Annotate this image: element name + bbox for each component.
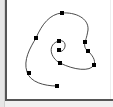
control-point-handle[interactable] [27, 71, 31, 75]
control-point-handle[interactable] [92, 63, 96, 67]
control-point-handle[interactable] [83, 40, 87, 44]
control-point-handle[interactable] [57, 48, 61, 52]
control-point-handle[interactable] [55, 84, 59, 88]
canvas-frame [0, 0, 113, 107]
control-point-handle[interactable] [58, 61, 62, 65]
control-point-handle[interactable] [57, 39, 61, 43]
control-point-handle[interactable] [34, 36, 38, 40]
control-point-handle[interactable] [60, 11, 64, 15]
control-point-handle[interactable] [86, 49, 90, 53]
drawing-canvas[interactable] [0, 0, 113, 107]
